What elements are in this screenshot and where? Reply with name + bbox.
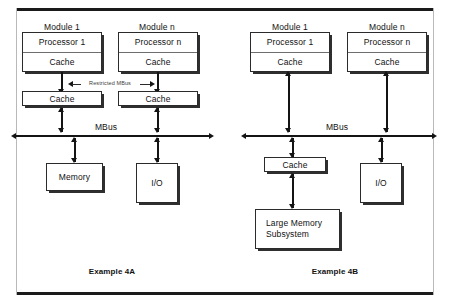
example-4b-module-1-box: Processor 1 Cache [250, 32, 330, 72]
example-4a-cache-1-bus-arrow-up [58, 107, 64, 112]
example-4b-module-n-box: Processor n Cache [347, 32, 427, 72]
example-4a-second-level-cache-1-label: Cache [23, 93, 101, 104]
example-4b-io-box: I/O [360, 163, 402, 203]
example-4a-module-1-title: Module 1 [44, 22, 80, 32]
example-4a-mbus-left-terminator [11, 133, 16, 139]
example-4a-mbus-label: MBus [95, 122, 117, 132]
example-4b-io-bus-arrow-up [378, 137, 384, 142]
example-4b-module-n-bus-arrow-down [383, 128, 389, 133]
example-4a-caption: Example 4A [89, 267, 135, 276]
example-4b-processor-1-label: Processor 1 [251, 33, 329, 53]
example-4a-mbus-line [15, 135, 210, 137]
figure-top-rule [16, 8, 434, 11]
example-4b-mbus-right-terminator [432, 133, 437, 139]
example-4a-memory-bus-arrow-up [71, 137, 77, 142]
example-4b-memory-link-line [292, 174, 294, 208]
example-4b-mbus-line [245, 135, 433, 137]
example-4b-mbus-label: MBus [326, 122, 348, 132]
example-4b-processor-n-label: Processor n [348, 33, 426, 53]
figure-container: Module 1 Processor 1 Cache Module n Proc… [0, 0, 450, 305]
example-4a-memory-label: Memory [47, 172, 102, 183]
example-4a-module-n-cache-label: Cache [119, 53, 197, 72]
example-4a-io-label: I/O [137, 178, 177, 189]
example-4b-module-1-bus-line [288, 73, 290, 132]
example-4a-processor-1-label: Processor 1 [23, 33, 101, 53]
example-4a-memory-box: Memory [46, 163, 103, 191]
example-4a-module-1-cache-label: Cache [23, 53, 101, 72]
restricted-mbus-right-arrow [150, 81, 155, 87]
example-4a-cache-n-bus-arrow-down [154, 128, 160, 133]
example-4a-cache-1-bus-arrow-down [58, 128, 64, 133]
example-4a-io-bus-arrow-up [154, 137, 160, 142]
example-4b-io-label: I/O [361, 178, 401, 189]
example-4a-module-1-box: Processor 1 Cache [22, 32, 102, 72]
example-4b-module-1-title: Module 1 [272, 22, 308, 32]
example-4b-module-n-bus-line [386, 73, 388, 132]
example-4b-shared-cache-box: Cache [264, 157, 326, 172]
example-4b-module-n-bus-arrow-up [383, 71, 389, 76]
example-4b-memory-subsystem-box: Large Memory Subsystem [255, 209, 340, 249]
example-4b-module-n-cache-label: Cache [348, 53, 426, 72]
figure-right-border [433, 8, 434, 295]
example-4a-second-level-cache-1: Cache [22, 91, 102, 106]
example-4b-module-1-cache-label: Cache [251, 53, 329, 72]
example-4a-second-level-cache-n: Cache [118, 91, 198, 106]
example-4b-module-1-bus-arrow-down [285, 128, 291, 133]
example-4b-memory-link-arrow-up [289, 173, 295, 178]
figure-left-border [16, 8, 17, 295]
example-4a-cache-n-bus-arrow-up [154, 107, 160, 112]
example-4a-module-n-box: Processor n Cache [118, 32, 198, 72]
figure-bottom-rule [16, 292, 434, 295]
example-4b-module-n-title: Module n [369, 22, 405, 32]
restricted-mbus-label: Restricted MBus [89, 80, 131, 86]
example-4b-memory-subsystem-label: Large Memory Subsystem [256, 218, 339, 239]
example-4a-processor-n-label: Processor n [119, 33, 197, 53]
example-4b-mbus-left-terminator [241, 133, 246, 139]
example-4a-mbus-right-terminator [209, 133, 214, 139]
example-4b-module-1-bus-arrow-up [285, 71, 291, 76]
example-4a-second-level-cache-n-label: Cache [119, 93, 197, 104]
example-4b-shared-cache-label: Cache [265, 159, 325, 170]
restricted-mbus-left-stem [72, 84, 81, 85]
example-4b-shared-cache-bus-arrow-up [289, 137, 295, 142]
example-4b-caption: Example 4B [312, 267, 358, 276]
example-4a-module-n-title: Module n [139, 22, 175, 32]
example-4a-io-box: I/O [136, 163, 178, 203]
